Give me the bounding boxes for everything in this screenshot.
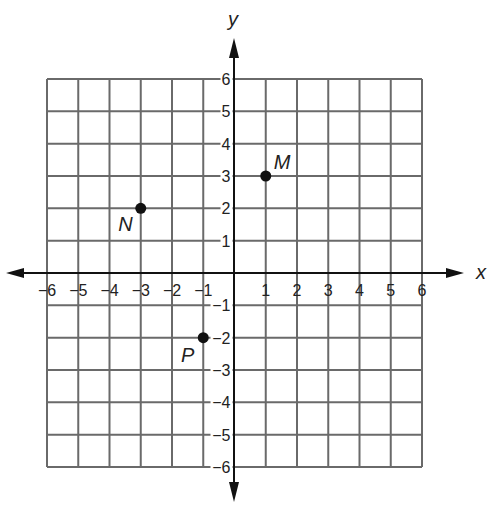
y-tick-label: 1 (222, 233, 231, 250)
y-axis-up-arrow-icon (229, 38, 239, 58)
point-label-m: M (274, 151, 291, 173)
point-label-p: P (181, 344, 195, 366)
y-tick-label: −1 (212, 297, 230, 314)
x-tick-label: −3 (132, 282, 150, 299)
x-tick-label: 6 (418, 282, 427, 299)
y-tick-label: 4 (222, 136, 231, 153)
x-tick-label: 5 (386, 282, 395, 299)
y-tick-label: −2 (212, 330, 230, 347)
y-tick-label: 6 (222, 71, 231, 88)
y-tick-label: 2 (222, 200, 231, 217)
x-tick-label: 2 (293, 282, 302, 299)
y-tick-label: 5 (222, 103, 231, 120)
point-p (198, 332, 209, 343)
y-tick-label: −4 (212, 394, 230, 411)
y-tick-label: −6 (212, 459, 230, 476)
y-tick-label: −3 (212, 362, 230, 379)
point-label-n: N (118, 213, 133, 235)
x-tick-label: −6 (38, 282, 56, 299)
x-tick-label: −5 (69, 282, 87, 299)
x-axis-left-arrow-icon (6, 268, 24, 278)
x-tick-label: 1 (261, 282, 270, 299)
x-tick-label: −1 (194, 282, 212, 299)
point-n (135, 203, 146, 214)
x-tick-label: −4 (100, 282, 118, 299)
coordinate-plane: x y −6−5−4−3−2−1123456−6−5−4−3−2−1123456… (0, 0, 496, 507)
y-tick-label: −5 (212, 427, 230, 444)
point-m (260, 171, 271, 182)
y-axis-title: y (226, 8, 239, 30)
x-axis-title: x (475, 261, 487, 283)
y-tick-label: 3 (222, 168, 231, 185)
x-tick-label: −2 (163, 282, 181, 299)
x-tick-label: 4 (355, 282, 364, 299)
y-axis-down-arrow-icon (229, 482, 239, 502)
x-axis-right-arrow-icon (446, 268, 464, 278)
x-tick-label: 3 (324, 282, 333, 299)
